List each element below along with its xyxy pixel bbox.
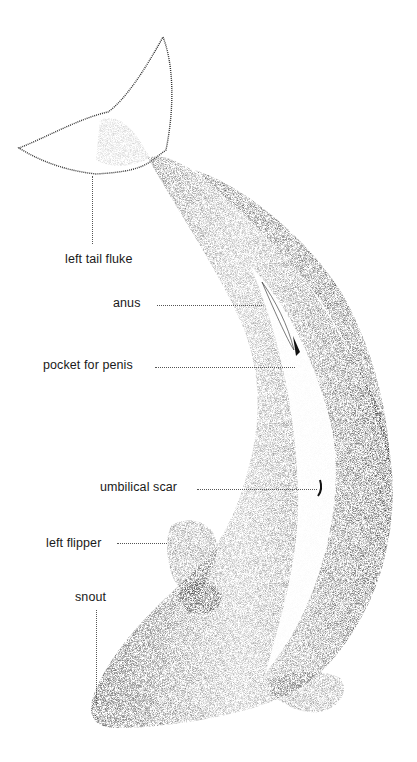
label-left-flipper: left flipper xyxy=(46,536,101,550)
right-flipper xyxy=(270,671,344,712)
label-snout: snout xyxy=(75,590,106,604)
leader-umbilical-scar xyxy=(197,489,317,490)
label-left-tail-fluke: left tail fluke xyxy=(65,252,133,266)
label-pocket-for-penis: pocket for penis xyxy=(43,358,133,372)
label-anus: anus xyxy=(113,296,141,310)
whale-illustration xyxy=(0,0,417,762)
leader-left-tail-fluke xyxy=(92,176,93,244)
label-umbilical-scar: umbilical scar xyxy=(100,480,177,494)
leader-snout xyxy=(96,610,97,705)
whale-anatomy-diagram: left tail fluke anus pocket for penis um… xyxy=(0,0,417,762)
tail-fluke xyxy=(19,37,172,174)
leader-left-flipper xyxy=(117,543,167,544)
leader-anus xyxy=(157,305,262,306)
leader-pocket-for-penis xyxy=(155,367,295,368)
